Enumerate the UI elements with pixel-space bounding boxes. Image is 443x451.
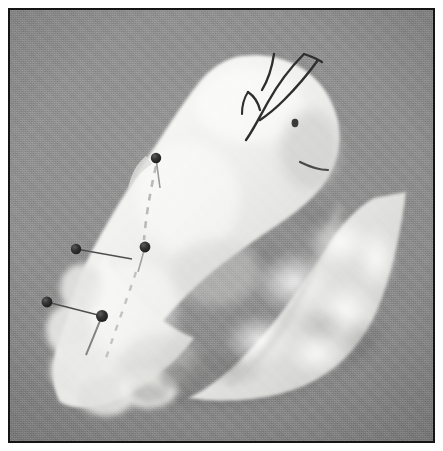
photograph bbox=[10, 10, 433, 441]
photo-scene bbox=[10, 10, 433, 441]
photo-frame: Pinned white plush bird form on gray bac… bbox=[8, 8, 435, 443]
stitched-eye bbox=[292, 119, 299, 127]
